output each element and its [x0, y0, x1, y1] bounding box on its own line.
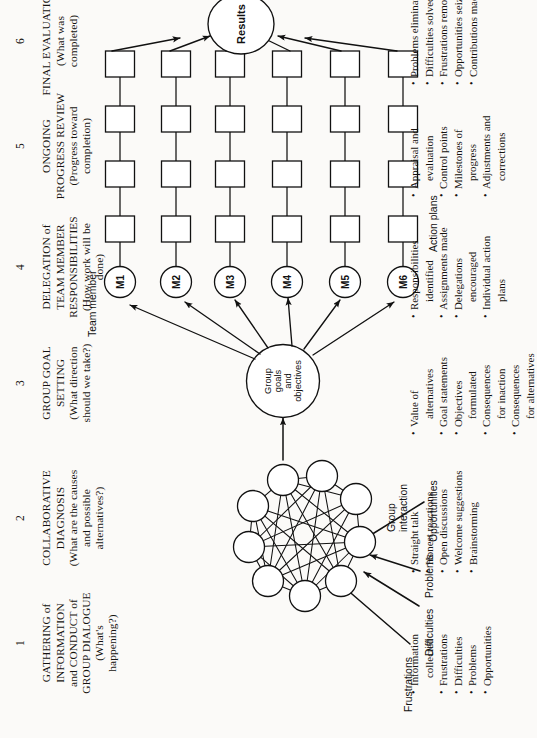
bullet-item: Consequences — [508, 353, 522, 435]
node-labels: Group goals and objectives M1 M2 M3 M4 M… — [115, 4, 409, 402]
member-label-m2: M2 — [171, 275, 182, 289]
column-question-line: completed) — [67, 0, 80, 96]
bullet-item: Consequences — [479, 353, 493, 435]
bullet-item: Value of — [407, 353, 421, 435]
column-title-line: FINAL EVALUATION — [40, 0, 53, 96]
bullet-continuation: encouraged — [465, 227, 479, 318]
input-label-problems: Problems — [424, 554, 435, 598]
member-label-m4: M4 — [282, 275, 293, 289]
input-label-opportunities: Opportunities — [428, 480, 439, 542]
bullet-item: Control points — [436, 115, 450, 197]
input-label-difficulties: Difficulties — [424, 609, 435, 656]
bullet-list-2: Straight talk Honest reactions Open disc… — [407, 471, 480, 573]
action-plans-label: Action plans — [428, 195, 439, 252]
group-interaction-label: Group interaction — [386, 484, 409, 532]
bullet-item: Welcome suggestions — [451, 471, 465, 573]
column-question-line: happening?) — [106, 582, 119, 704]
column-number: 3 — [14, 324, 27, 442]
bullet-item: Opportunities — [480, 626, 494, 694]
column-question-line: (What are the causes — [67, 450, 80, 586]
bullet-continuation: for alternatives — [523, 353, 537, 435]
bullet-continuation: corrections — [494, 115, 508, 197]
column-title-line: SETTING — [54, 324, 67, 442]
column-header-1: 1 GATHERING of INFORMATION and CONDUCT o… — [14, 582, 120, 704]
bullet-item: Problems eliminated — [407, 0, 421, 85]
bullet-item: Objectives — [451, 353, 465, 435]
column-title-line: GROUP GOAL — [40, 324, 53, 442]
bullet-item: Goal statements — [436, 353, 450, 435]
column-title-line: RESPONSIBILITIES — [67, 204, 80, 330]
column-title-line: TEAM MEMBER — [54, 204, 67, 330]
goal-circle-line-3: objectives — [292, 360, 303, 402]
bullet-item: Responsibilities — [407, 227, 421, 318]
column-title-line: and CONDUCT of — [67, 582, 80, 704]
column-title-line: GROUP DIALOGUE — [80, 582, 93, 704]
bullet-item: Contributions made — [466, 0, 480, 85]
column-header-5: 5 ONGOING PROGRESS REVIEW (Progress towa… — [14, 84, 93, 208]
member-label-m3: M3 — [225, 275, 236, 289]
group-interaction-network — [234, 461, 376, 612]
member-circles — [105, 267, 419, 298]
bullet-list-1: Information collected Frustrations Diffi… — [407, 626, 495, 694]
bullet-item: Brainstorming — [466, 471, 480, 573]
column-title-line: INFORMATION — [54, 582, 67, 704]
bullet-continuation: alternatives — [422, 353, 436, 435]
team-member-label: Team member — [87, 271, 98, 337]
bullet-item: Opportunities seized — [451, 0, 465, 85]
bullet-list-4: Responsibilities identified Assignments … — [407, 227, 508, 318]
column-header-3: 3 GROUP GOAL SETTING (What direction sho… — [14, 324, 93, 442]
bullet-continuation: formulated — [465, 353, 479, 435]
column-question-line: completion) — [80, 84, 93, 208]
column-question-line: (Progress toward — [67, 84, 80, 208]
column-question-line: should we take?) — [80, 324, 93, 442]
column-question-line: (What was — [54, 0, 67, 96]
bullet-item: Frustrations removed — [436, 0, 450, 85]
bullet-item: Individual action — [479, 227, 493, 318]
bullet-item: Difficulties — [451, 626, 465, 694]
goal-to-member-arrows — [130, 298, 394, 359]
column-question-line: alternatives?) — [93, 450, 106, 586]
bullet-item: Difficulties solved — [422, 0, 436, 85]
bullet-continuation: progress — [465, 115, 479, 197]
column-number: 5 — [14, 84, 27, 208]
column-title-line: GATHERING of — [40, 582, 53, 704]
column-number: 6 — [14, 0, 27, 96]
column-header-6: 6 FINAL EVALUATION (What was completed) — [14, 0, 80, 96]
column-title-line: PROGRESS REVIEW — [54, 84, 67, 208]
bullet-list-3: Value of alternatives Goal statements Ob… — [407, 353, 537, 435]
action-plan-chains — [106, 51, 418, 267]
column-number: 4 — [14, 204, 27, 330]
bullet-item: Appraisal and — [407, 115, 421, 197]
member-label-m5: M5 — [340, 275, 351, 289]
bullet-item: Milestones of — [451, 115, 465, 197]
column-title-line: COLLABORATIVE — [40, 450, 53, 586]
group-interaction-line-1: Group — [386, 484, 398, 532]
column-title-line: DELEGATION of — [40, 204, 53, 330]
member-label-m1: M1 — [115, 275, 126, 289]
column-question-line: (What direction — [67, 324, 80, 442]
column-number: 1 — [14, 582, 27, 704]
bullet-item: Adjustments and — [479, 115, 493, 197]
input-label-frustrations: Frustrations — [403, 657, 414, 712]
results-label: Results — [235, 4, 247, 44]
bullet-item: Delegations — [451, 227, 465, 318]
column-question-line: and possible — [80, 450, 93, 586]
bullet-continuation: for inaction — [494, 353, 508, 435]
bullet-item: Frustrations — [436, 626, 450, 694]
group-interaction-line-2: interaction — [398, 484, 410, 532]
column-title-line: ONGOING — [40, 84, 53, 208]
bullet-item: Problems — [465, 626, 479, 694]
bullet-continuation: evaluation — [422, 115, 436, 197]
bullet-continuation: plans — [494, 227, 508, 318]
bullet-list-6: Problems eliminated Difficulties solved … — [407, 0, 480, 85]
column-title-line: DIAGNOSIS — [54, 450, 67, 586]
column-number: 2 — [14, 450, 27, 586]
column-question-line: (What's — [93, 582, 106, 704]
column-header-2: 2 COLLABORATIVE DIAGNOSIS (What are the … — [14, 450, 106, 586]
bullet-list-5: Appraisal and evaluation Control points … — [407, 115, 508, 197]
